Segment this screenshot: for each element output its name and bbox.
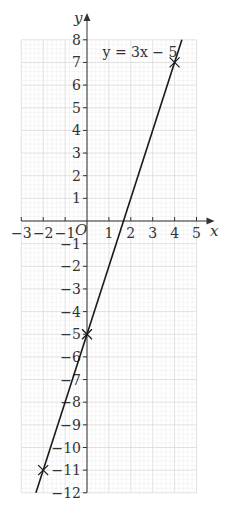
y-tick-label: 8 [72,32,81,48]
y-tick-label: −9 [60,417,81,433]
y-tick-label: −3 [60,281,81,297]
y-tick-label: 3 [72,145,81,161]
x-tick-label: 1 [104,225,113,241]
y-tick-label: 1 [72,190,81,206]
y-tick-label: 2 [72,168,81,184]
x-tick-label: 4 [170,225,179,241]
y-tick-label: −5 [60,326,81,342]
x-tick-label: −2 [33,225,54,241]
y-tick-label: −2 [60,258,81,274]
x-tick-label: −3 [11,225,32,241]
x-tick-label: 5 [192,225,201,241]
y-tick-label: 4 [72,122,81,138]
y-tick-label: −4 [60,304,81,320]
y-tick-label: 5 [72,100,81,116]
y-tick-label: 6 [72,77,81,93]
line-chart: −3−2−11234587654321−1−2−3−4−5−6−7−8−9−10… [0,0,237,515]
x-axis-label: x [210,222,219,240]
x-tick-label: 2 [126,225,135,241]
y-axis-label: y [73,9,83,27]
y-tick-label: −11 [51,462,81,478]
x-tick-label: 3 [148,225,157,241]
y-tick-label: −12 [51,485,81,501]
equation-label: y = 3x − 5 [102,44,178,60]
y-tick-label: 7 [72,54,81,70]
origin-label: O [75,221,87,239]
y-tick-label: −10 [51,440,81,456]
